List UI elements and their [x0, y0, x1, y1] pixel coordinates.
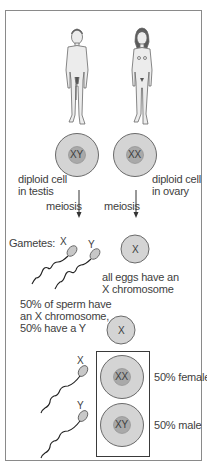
- fertilising-sperm-x-label: X: [77, 355, 83, 367]
- fertilising-sperm-y-icon: [41, 409, 90, 458]
- gametes-heading: Gametes:: [9, 237, 55, 249]
- sperm-caption-line2: an X chromosome,: [20, 310, 109, 322]
- sperm-caption-line3: 50% have a Y: [20, 322, 86, 334]
- male-meiosis-label: meiosis: [46, 200, 82, 212]
- female-meiosis-label: meiosis: [104, 200, 140, 212]
- male-cell-chromosomes: XY: [70, 149, 83, 161]
- female-zygote-label: XX: [115, 371, 128, 383]
- female-cell-caption-line1: diploid cell: [152, 173, 201, 185]
- male-zygote-label: XY: [115, 419, 128, 431]
- male-figure-icon: [66, 29, 88, 124]
- fertilisation-egg-label: X: [118, 325, 124, 337]
- egg-caption-line2: X chromosome: [102, 283, 174, 295]
- zygote-outcome-box: [96, 351, 150, 457]
- female-cell-caption-line2: in ovary: [152, 185, 189, 197]
- sperm-caption-line1: 50% of sperm have: [20, 298, 111, 310]
- male-cell-caption-line2: in testis: [18, 185, 54, 197]
- sperm-x-icon: [32, 244, 79, 284]
- sperm-y-label: Y: [88, 239, 94, 251]
- female-figure-icon: [132, 28, 152, 124]
- male-cell-caption-line1: diploid cell: [18, 173, 67, 185]
- sperm-x-label: X: [60, 236, 66, 248]
- egg-caption-line1: all eggs have an: [102, 271, 179, 283]
- sperm-y-icon: [55, 247, 102, 289]
- female-cell-chromosomes: XX: [128, 149, 141, 161]
- egg-gamete-label: X: [132, 244, 138, 256]
- male-result-label: 50% male: [154, 419, 201, 431]
- fertilising-sperm-y-label: Y: [77, 400, 83, 412]
- female-result-label: 50% female: [154, 371, 207, 383]
